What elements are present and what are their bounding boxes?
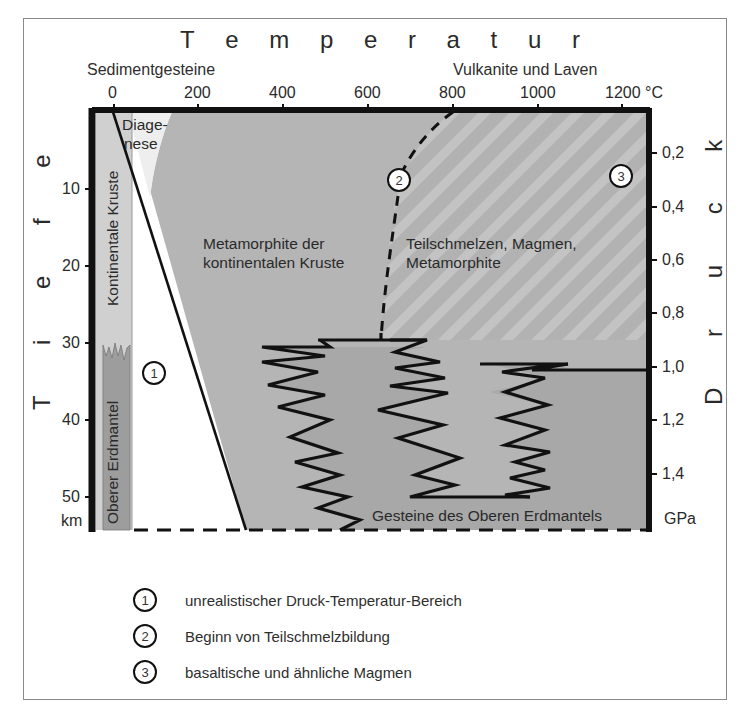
- partial-melt-label: Teilschmelzen, Magmen, Metamorphite: [406, 234, 577, 272]
- pressure-tick-1-2: 1,2: [662, 411, 684, 429]
- diagenesis-label-line2: nese: [122, 134, 168, 153]
- title-letter: r: [572, 26, 580, 54]
- title-letter: m: [269, 26, 289, 54]
- temp-tick-600: 600: [354, 84, 381, 102]
- temp-tick-0: 0: [108, 84, 117, 102]
- legend-text-1: unrealistischer Druck-Temperatur-Bereich: [185, 592, 462, 609]
- pressure-tick-0-2: 0,2: [662, 144, 684, 162]
- legend-marker-2: 2: [133, 624, 157, 648]
- sediment-label: Sedimentgesteine: [87, 61, 215, 79]
- legend-marker-1: 1: [133, 588, 157, 612]
- partial-melt-label-line2: Metamorphite: [406, 253, 577, 272]
- marker-1-number: 1: [150, 366, 157, 381]
- legend-item-2: 2 Beginn von Teilschmelzbildung: [133, 618, 462, 654]
- legend-item-3: 3 basaltische und ähnliche Magmen: [133, 654, 462, 690]
- pressure-tick-0-4: 0,4: [662, 198, 684, 216]
- metamorphic-label-line2: kontinentalen Kruste: [203, 253, 344, 272]
- legend-text-2: Beginn von Teilschmelzbildung: [185, 628, 390, 645]
- title-letter: e: [225, 26, 238, 54]
- legend-item-1: 1 unrealistischer Druck-Temperatur-Berei…: [133, 582, 462, 618]
- title-letter: e: [364, 26, 377, 54]
- crust-label: Kontinentale Kruste: [104, 171, 122, 306]
- partial-melt-label-line1: Teilschmelzen, Magmen,: [406, 234, 577, 253]
- temp-tick-1000: 1000: [520, 84, 556, 102]
- marker-3: 3: [609, 164, 633, 188]
- temp-tick-800: 800: [439, 84, 466, 102]
- depth-tick-20: 20: [62, 257, 80, 275]
- metamorphic-label: Metamorphite der kontinentalen Kruste: [203, 234, 344, 272]
- marker-2-number: 2: [395, 173, 402, 188]
- pressure-tick-1-0: 1,0: [662, 358, 684, 376]
- upper-mantle-label: Oberer Erdmantel: [104, 401, 122, 524]
- depth-tick-10: 10: [62, 180, 80, 198]
- metamorphic-label-line1: Metamorphite der: [203, 234, 344, 253]
- depth-tick-50: 50: [62, 488, 80, 506]
- temp-tick-400: 400: [269, 84, 296, 102]
- pressure-unit: GPa: [664, 510, 696, 528]
- pressure-tick-0-6: 0,6: [662, 251, 684, 269]
- legend-text-3: basaltische und ähnliche Magmen: [185, 664, 412, 681]
- temperature-axis-title: T e m p e r a t u r: [180, 26, 580, 54]
- temp-tick-200: 200: [184, 84, 211, 102]
- partial-melt-region: [380, 112, 648, 342]
- title-letter: t: [491, 26, 498, 54]
- title-letter: r: [408, 26, 416, 54]
- marker-1: 1: [142, 361, 166, 385]
- diagenesis-label-line1: Diage-: [122, 115, 168, 134]
- depth-unit: km: [61, 512, 82, 530]
- marker-3-number: 3: [617, 169, 624, 184]
- title-letter: u: [528, 26, 541, 54]
- mantle-rocks-label: Gesteine des Oberen Erdmantels: [372, 506, 602, 525]
- title-letter: a: [447, 26, 460, 54]
- volcanic-label: Vulkanite und Laven: [453, 61, 597, 79]
- depth-tick-40: 40: [62, 411, 80, 429]
- depth-axis-title: T i e f e: [28, 132, 56, 410]
- pressure-tick-0-8: 0,8: [662, 304, 684, 322]
- diagenesis-label: Diage- nese: [122, 115, 168, 153]
- pressure-axis-title: D r u c k: [700, 118, 728, 405]
- title-letter: T: [180, 26, 195, 54]
- depth-tick-30: 30: [62, 334, 80, 352]
- pressure-tick-1-4: 1,4: [662, 465, 684, 483]
- temp-tick-1200: 1200 °C: [605, 84, 663, 102]
- legend: 1 unrealistischer Druck-Temperatur-Berei…: [133, 582, 462, 690]
- legend-marker-3: 3: [133, 660, 157, 684]
- title-letter: p: [320, 26, 333, 54]
- marker-2: 2: [387, 168, 411, 192]
